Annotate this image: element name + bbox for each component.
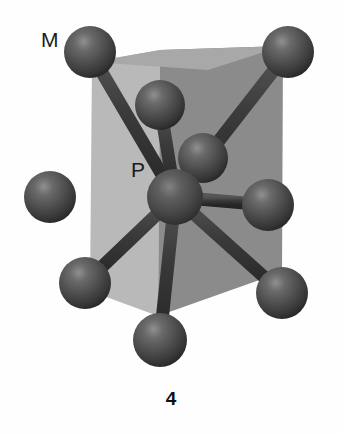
atom-M-mid-left bbox=[24, 171, 76, 223]
atom-M-top-inner bbox=[135, 80, 185, 130]
atom-M-bottom-center bbox=[133, 313, 187, 367]
atom-M-bottom-right bbox=[256, 267, 308, 319]
figure-container: M P 4 bbox=[0, 0, 342, 435]
atom-M-bottom-left bbox=[59, 257, 111, 309]
atom-P-sphere bbox=[147, 169, 203, 225]
atom-M-top-left bbox=[64, 26, 116, 78]
atom-label-metal: M bbox=[41, 29, 59, 50]
atom-label-center: P bbox=[131, 159, 145, 180]
central-atom-P bbox=[147, 169, 203, 225]
figure-caption: 4 bbox=[0, 389, 342, 408]
atom-M-top-right bbox=[262, 26, 314, 78]
molecular-structure-diagram bbox=[0, 0, 342, 435]
atom-M-mid-right bbox=[242, 179, 294, 231]
